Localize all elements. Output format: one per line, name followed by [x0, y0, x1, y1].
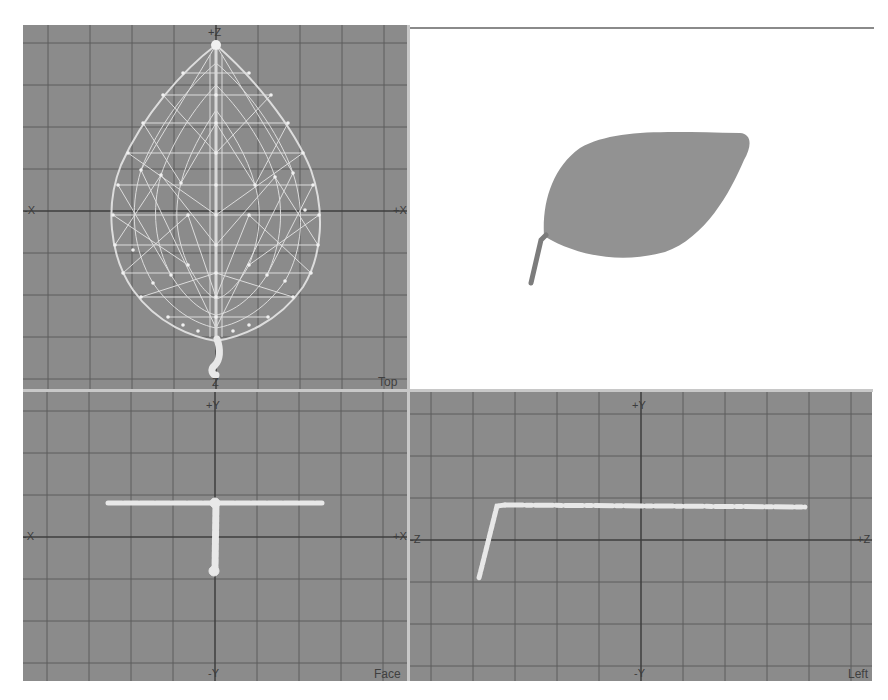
viewport-top[interactable]: +Z Z -X +X Top: [23, 25, 407, 389]
axis-label-left: -Z: [410, 534, 420, 545]
perspective-top-border: [410, 27, 874, 29]
shaded-leaf-render: [410, 28, 872, 392]
axis-label-up: +Z: [208, 27, 221, 38]
axis-label-right: +Z: [857, 534, 870, 545]
axis-label-down: -Y: [208, 668, 219, 679]
top-grid: [23, 25, 407, 389]
leaf-side-profile: [479, 505, 805, 578]
axis-label-left: -X: [23, 531, 34, 542]
axis-label-down: Z: [212, 377, 219, 388]
viewport-perspective[interactable]: [410, 28, 872, 392]
axis-label-down: -Y: [634, 668, 645, 679]
axis-label-up: +Y: [632, 400, 646, 411]
shaded-leaf-stem: [531, 235, 546, 283]
viewport-name-top: Top: [378, 376, 397, 388]
face-grid: [23, 392, 407, 681]
axis-label-left: -X: [24, 205, 35, 216]
viewport-name-face: Face: [374, 668, 401, 680]
left-grid: [410, 392, 872, 681]
viewport-face[interactable]: +Y -Y -X +X Face: [23, 392, 407, 681]
viewport-name-left: Left: [848, 668, 868, 680]
axis-label-right: +X: [393, 531, 407, 542]
viewport-left[interactable]: +Y -Y -Z +Z Left: [410, 392, 872, 681]
axis-label-right: +X: [393, 205, 407, 216]
axis-label-up: +Y: [206, 400, 220, 411]
